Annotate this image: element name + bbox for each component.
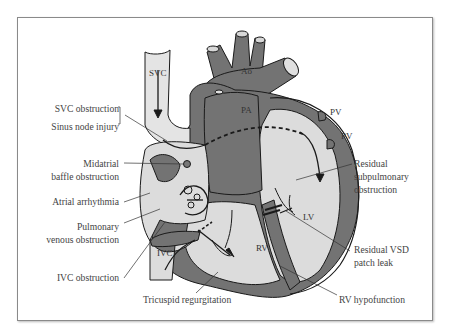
label-lv: LV [303,212,314,222]
callout-svc-obstruction: SVC obstruction [55,103,119,115]
pulmonary-artery [204,92,262,194]
label-pa: PA [241,105,252,115]
callout-venous-obstruction: venous obstruction [46,234,119,246]
callout-midatrial: Midatrial [83,158,119,170]
label-ivc: IVC [157,248,173,258]
callout-atrial-arrhythmia: Atrial arrhythmia [52,196,119,208]
callout-baffle-obstruction: baffle obstruction [51,171,119,183]
callout-ivc-obstruction: IVC obstruction [57,272,119,284]
label-rv: RV [256,243,268,253]
callout-sinus-node-injury: Sinus node injury [51,121,119,133]
svc-tube [145,50,190,150]
callout-residual-vsd: Residual VSD [354,244,409,256]
label-svc: SVC [149,68,167,78]
callout-patch-leak: patch leak [354,257,393,269]
callout-tricuspid-regurgitation: Tricuspid regurgitation [143,294,231,306]
label-pv-2: PV [341,131,353,141]
callout-residual: Residual [354,158,388,170]
callout-obstruction: obstruction [354,184,397,196]
callout-pulmonary: Pulmonary [77,221,119,233]
midatrial-dot [184,161,191,168]
callout-subpulmonary: subpulmonary [354,171,409,183]
label-pv-1: PV [330,107,342,117]
label-ao: Ao [241,66,252,76]
callout-rv-hypofunction: RV hypofunction [339,294,405,306]
